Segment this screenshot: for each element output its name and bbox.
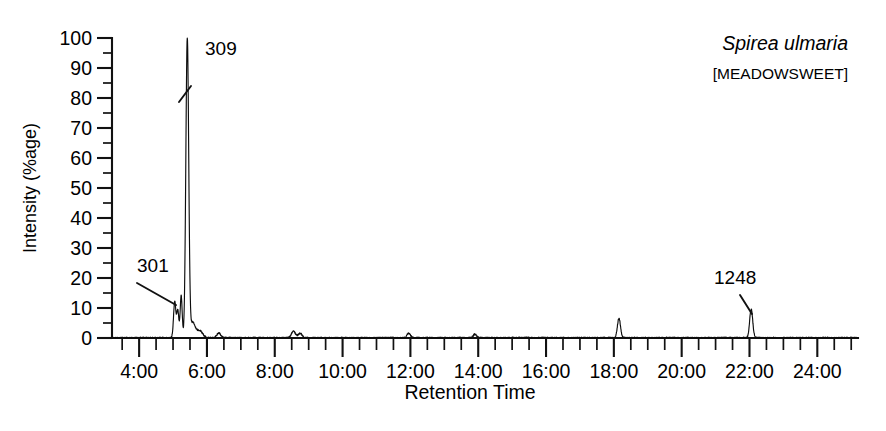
x-tick-label: 4:00 [120, 360, 158, 382]
chromatogram-trace [112, 38, 858, 338]
peak-leader-line [740, 295, 752, 314]
y-tick-label: 0 [81, 327, 92, 349]
x-axis-tick-labels: 4:006:008:0010:0012:0014:0016:0018:0020:… [120, 360, 842, 382]
x-axis-label: Retention Time [404, 381, 535, 403]
x-tick-label: 20:00 [657, 360, 706, 382]
species-scientific-name: Spirea ulmaria [722, 32, 848, 54]
chromatogram-plot: 0102030405060708090100 4:006:008:0010:00… [0, 0, 886, 431]
y-tick-label: 60 [70, 147, 92, 169]
y-axis-label: Intensity (%age) [20, 123, 40, 253]
peak-labels: 3013091248 [137, 38, 756, 288]
y-tick-label: 80 [70, 87, 92, 109]
peak-label-301: 301 [137, 255, 169, 276]
peak-label-1248: 1248 [714, 267, 756, 288]
y-axis-ticks [97, 38, 112, 338]
peak-leader-line [137, 283, 176, 305]
y-tick-label: 20 [70, 267, 92, 289]
x-tick-label: 10:00 [318, 360, 367, 382]
y-tick-label: 70 [70, 117, 92, 139]
x-tick-label: 24:00 [793, 360, 842, 382]
peak-leader-line [179, 86, 191, 102]
y-tick-label: 100 [59, 27, 92, 49]
x-tick-label: 22:00 [725, 360, 774, 382]
peak-label-309: 309 [205, 38, 237, 59]
y-tick-label: 90 [70, 57, 92, 79]
peak-leader-lines [137, 86, 752, 314]
x-tick-label: 6:00 [188, 360, 226, 382]
species-common-name: [MEADOWSWEET] [713, 65, 848, 82]
x-axis-ticks [122, 338, 851, 357]
x-tick-label: 14:00 [454, 360, 503, 382]
x-tick-label: 18:00 [589, 360, 638, 382]
y-tick-label: 50 [70, 177, 92, 199]
x-tick-label: 12:00 [386, 360, 435, 382]
y-tick-label: 30 [70, 237, 92, 259]
x-tick-label: 8:00 [256, 360, 294, 382]
y-axis-tick-labels: 0102030405060708090100 [59, 27, 92, 349]
y-tick-label: 40 [70, 207, 92, 229]
y-tick-label: 10 [70, 297, 92, 319]
chromatogram-figure: 0102030405060708090100 4:006:008:0010:00… [0, 0, 886, 431]
x-tick-label: 16:00 [522, 360, 571, 382]
